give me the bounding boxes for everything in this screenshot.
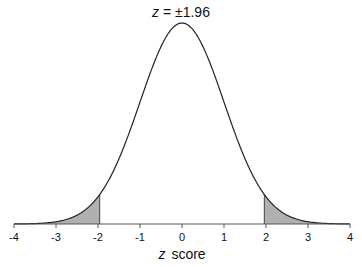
x-tick-label: -3 (51, 231, 61, 243)
x-tick-label: 0 (179, 231, 185, 243)
x-tick-label: 2 (263, 231, 269, 243)
normal-distribution-chart: -4-3-2-101234 zscore (0, 0, 362, 267)
chart-title: z = ±1.96 (0, 4, 362, 20)
x-axis-label: zscore (157, 246, 205, 262)
x-tick-label: 1 (221, 231, 227, 243)
x-tick-label: -4 (9, 231, 19, 243)
x-tick-label: 4 (347, 231, 353, 243)
x-tick-label: -2 (93, 231, 103, 243)
x-tick-label: -1 (135, 231, 145, 243)
x-axis-ticks: -4-3-2-101234 (9, 224, 353, 243)
normal-curve (14, 23, 350, 224)
x-tick-label: 3 (305, 231, 311, 243)
